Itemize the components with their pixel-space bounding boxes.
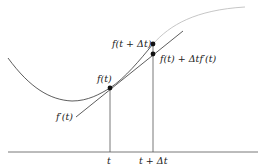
- label-t-plus-dt: t + Δt: [139, 155, 168, 166]
- function-curve-continuation: [153, 7, 245, 44]
- point-f-t: [108, 86, 113, 91]
- point-linear-approx: [151, 52, 156, 57]
- label-f-t: f(t): [96, 73, 112, 84]
- label-derivative: f′(t): [55, 111, 73, 122]
- tangent-approximation-diagram: f(t) f(t + Δt) f(t) + Δtf′(t) f′(t) t t …: [0, 0, 266, 168]
- label-f-t-plus-dt: f(t + Δt): [111, 38, 152, 49]
- label-t: t: [107, 155, 111, 166]
- label-linear-approx: f(t) + Δtf′(t): [159, 53, 217, 64]
